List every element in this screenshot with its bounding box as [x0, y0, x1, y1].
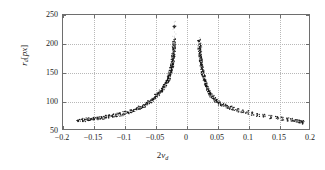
x-tick-label: 0.2 — [290, 133, 325, 142]
y-axis-title: rd[px] — [19, 25, 30, 85]
figure: −0.2−0.15−0.1−0.0500.050.10.150.2 501001… — [0, 0, 325, 170]
series-right-branch — [197, 39, 305, 125]
x-axis-title: 2vd — [0, 150, 325, 161]
y-tick-label: 200 — [30, 39, 58, 48]
y-tick-label: 50 — [30, 126, 58, 135]
scatter-points — [63, 15, 309, 129]
y-tick-label: 100 — [30, 97, 58, 106]
y-tick-label: 250 — [30, 10, 58, 19]
y-tick-label: 150 — [30, 68, 58, 77]
plot-area — [62, 14, 310, 130]
series-left-branch — [76, 25, 176, 122]
